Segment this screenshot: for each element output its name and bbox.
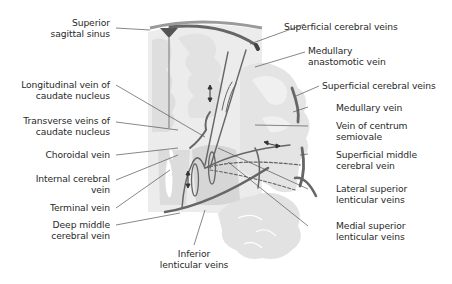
brain-tissue: [148, 24, 310, 259]
label-medullary-anastomotic-vein: Medullary anastomotic vein: [308, 45, 386, 67]
label-longitudinal-vein-caudate: Longitudinal vein of caudate nucleus: [21, 79, 110, 101]
label-superior-sagittal-sinus: Superior sagittal sinus: [51, 17, 110, 39]
label-superficial-cerebral-veins-top: Superficial cerebral veins: [284, 21, 398, 32]
label-vein-centrum-semiovale: Vein of centrum semiovale: [336, 120, 407, 142]
label-choroidal-vein: Choroidal vein: [45, 149, 110, 160]
label-internal-cerebral-vein: Internal cerebral vein: [36, 173, 110, 195]
label-deep-middle-cerebral-vein: Deep middle cerebral vein: [51, 219, 110, 241]
label-superficial-middle-cerebral-vein: Superficial middle cerebral vein: [336, 149, 417, 171]
label-inferior-lenticular-veins: Inferior lenticular veins: [148, 248, 240, 270]
label-lateral-superior-lenticular-veins: Lateral superior lenticular veins: [336, 183, 407, 205]
label-medial-superior-lenticular-veins: Medial superior lenticular veins: [336, 220, 405, 242]
label-medullary-vein: Medullary vein: [336, 102, 402, 113]
label-terminal-vein: Terminal vein: [50, 202, 110, 213]
label-transverse-veins-caudate: Transverse veins of caudate nucleus: [23, 115, 110, 137]
label-superficial-cerebral-veins-mid: Superficial cerebral veins: [322, 80, 436, 91]
